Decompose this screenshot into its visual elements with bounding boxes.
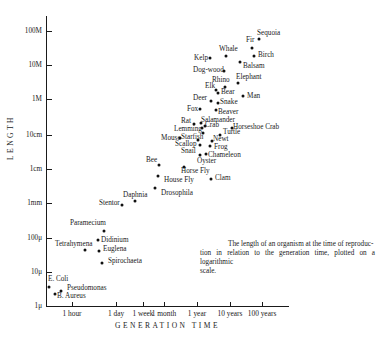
data-point-marker — [98, 250, 101, 253]
y-tick-label: 10μ — [2, 268, 42, 276]
y-tick — [46, 65, 52, 66]
figure-caption: The length of an organism at the time of… — [200, 240, 375, 276]
y-axis-line — [46, 16, 47, 307]
y-tick — [46, 238, 52, 239]
x-tick — [230, 302, 231, 307]
data-point-label: Deer — [193, 95, 207, 102]
caption-line-1: The length of an organism at the time of… — [200, 240, 375, 249]
data-point-label: B. Aureus — [57, 293, 86, 300]
x-axis-label: GENERATION TIME — [115, 321, 220, 330]
data-point-label: Snake — [220, 99, 238, 106]
y-tick-label: 1M — [2, 95, 42, 103]
data-point-marker — [258, 38, 261, 41]
data-point-label: Bee — [146, 157, 157, 164]
data-point-label: Rat — [181, 118, 191, 125]
y-tick-label: 1mm — [2, 199, 42, 207]
data-point-label: Horseshoe Crab — [233, 124, 279, 131]
data-point-label: Newt — [213, 136, 229, 143]
data-point-marker — [239, 61, 242, 64]
y-tick-label: 1cm — [2, 165, 42, 173]
x-tick-label: 1 month — [152, 309, 176, 318]
data-point-marker — [48, 286, 51, 289]
y-tick-label: 100M — [2, 27, 42, 35]
data-point-marker — [210, 100, 213, 103]
x-tick-label: 100 years — [248, 309, 277, 318]
data-point-label: Salamander — [201, 117, 235, 124]
caption-line-2: tion in relation to the generation time,… — [200, 249, 375, 267]
x-tick — [116, 302, 117, 307]
data-point-marker — [209, 57, 212, 60]
data-point-marker — [101, 262, 104, 265]
data-point-label: Clam — [215, 175, 231, 182]
x-tick — [262, 302, 263, 307]
data-point-marker — [225, 55, 228, 58]
data-point-label: Horse Fly — [181, 168, 210, 175]
scatter-chart: 100M10M1M10cm1cm1mm100μ10μ1μ 1 hour1 day… — [0, 0, 378, 346]
y-tick — [46, 31, 52, 32]
data-point-marker — [224, 86, 227, 89]
data-point-label: Dog-wood — [193, 67, 224, 74]
data-point-label: Fox — [187, 106, 198, 113]
data-point-label: Daphnia — [123, 192, 147, 199]
y-tick-label: 1μ — [2, 302, 42, 310]
y-tick-label: 10M — [2, 61, 42, 69]
y-tick — [46, 169, 52, 170]
x-tick-label: 1 week — [132, 309, 153, 318]
data-point-label: Pseudomonas — [67, 285, 107, 292]
data-point-label: Rhino — [212, 77, 230, 84]
x-tick-label: 1 hour — [62, 309, 81, 318]
y-tick — [46, 306, 52, 307]
data-point-label: Bear — [221, 89, 235, 96]
data-point-marker — [97, 239, 100, 242]
data-point-marker — [253, 55, 256, 58]
data-point-marker — [237, 82, 240, 85]
data-point-label: Frog — [214, 144, 228, 151]
data-point-label: Lemming — [174, 126, 202, 133]
data-point-marker — [217, 92, 220, 95]
data-point-marker — [157, 175, 160, 178]
data-point-label: Kelp — [194, 55, 208, 62]
data-point-label: Euglena — [103, 246, 127, 253]
data-point-label: Fir — [246, 37, 254, 44]
caption-line-3: scale. — [200, 267, 375, 276]
data-point-label: Sequoia — [257, 30, 280, 37]
x-axis-line — [46, 306, 289, 307]
data-point-label: Tetrahymena — [55, 241, 92, 248]
data-point-label: Drosophila — [161, 190, 193, 197]
data-point-label: Snail — [181, 148, 196, 155]
data-point-label: Balsam — [243, 63, 265, 70]
data-point-marker — [121, 204, 124, 207]
y-tick-label: 100μ — [2, 234, 42, 242]
data-point-label: Paramecium — [70, 220, 106, 227]
data-point-marker — [242, 95, 245, 98]
data-point-marker — [209, 145, 212, 148]
x-tick — [197, 302, 198, 307]
data-point-marker — [154, 187, 157, 190]
data-point-label: Birch — [258, 52, 274, 59]
data-point-label: E. Coli — [48, 276, 68, 283]
x-tick-label: 1 year — [188, 309, 206, 318]
data-point-marker — [60, 290, 63, 293]
data-point-marker — [199, 108, 202, 111]
data-point-label: Beaver — [218, 109, 238, 116]
data-point-marker — [84, 249, 87, 252]
data-point-label: Whale — [219, 46, 238, 53]
data-point-label: Didinium — [101, 237, 129, 244]
x-tick-label: 1 day — [108, 309, 124, 318]
data-point-marker — [210, 178, 213, 181]
data-point-marker — [199, 144, 202, 147]
data-point-marker — [134, 200, 137, 203]
data-point-marker — [193, 123, 196, 126]
y-axis-label: LENGTH — [6, 115, 15, 160]
x-tick — [143, 302, 144, 307]
data-point-label: House Fly — [164, 177, 194, 184]
data-point-label: Starfish — [181, 134, 203, 141]
x-tick-label: 10 years — [218, 309, 243, 318]
data-point-label: Mouse — [161, 135, 181, 142]
data-point-marker — [103, 230, 106, 233]
data-point-marker — [158, 164, 161, 167]
x-tick — [72, 302, 73, 307]
data-point-marker — [219, 134, 222, 137]
y-tick — [46, 135, 52, 136]
x-tick — [164, 302, 165, 307]
